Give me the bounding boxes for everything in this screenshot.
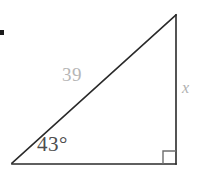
triangle-drawing [0, 0, 205, 171]
hypotenuse-length-label: 39 [62, 65, 82, 84]
right-triangle-figure: 39 x 43° [0, 0, 205, 171]
base-angle-label: 43° [37, 134, 68, 155]
right-angle-marker-icon [163, 151, 176, 164]
vertical-side-length-label: x [182, 80, 189, 96]
